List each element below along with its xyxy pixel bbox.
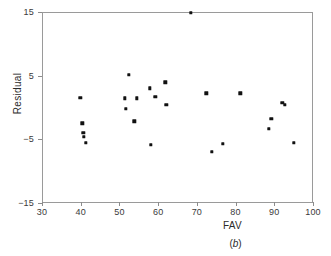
data-point: [82, 135, 85, 138]
x-axis-tick: [197, 202, 198, 206]
x-axis-tick: [313, 202, 314, 206]
data-point: [149, 143, 152, 146]
x-axis-tick-label: 70: [192, 207, 202, 217]
data-point: [205, 92, 208, 95]
data-point: [267, 127, 270, 130]
data-point: [81, 121, 84, 124]
data-point: [127, 73, 130, 76]
y-axis-tick-label: −15: [18, 198, 34, 208]
y-axis-tick: [38, 203, 42, 204]
data-point: [78, 96, 81, 99]
data-point: [189, 11, 192, 14]
y-axis-tick: [38, 139, 42, 140]
data-point: [148, 86, 151, 89]
x-axis-label-text: FAV: [89, 220, 242, 231]
x-axis-tick-label: 90: [269, 207, 279, 217]
x-axis-tick: [158, 202, 159, 206]
data-point: [84, 141, 87, 144]
x-axis-tick-label: 50: [114, 207, 124, 217]
x-axis-tick-label: 80: [230, 207, 240, 217]
data-point: [164, 81, 167, 84]
y-axis-tick-label: 15: [24, 7, 34, 17]
y-axis-tick-label: 5: [29, 71, 34, 81]
plot-frame: [42, 12, 313, 203]
figure-caption-text: (b): [89, 238, 241, 249]
plot-data-area: [43, 13, 312, 202]
x-axis-label: FAV: [0, 220, 331, 231]
data-point: [239, 92, 242, 95]
x-axis-tick-label: 40: [75, 207, 85, 217]
residual-scatter-figure: FAV Residual (b) 30405060708090100155−5−…: [0, 0, 331, 256]
data-point: [154, 95, 157, 98]
y-axis-tick: [38, 12, 42, 13]
x-axis-tick: [42, 202, 43, 206]
data-point: [270, 117, 273, 120]
figure-caption: (b): [0, 238, 331, 249]
data-point: [210, 150, 213, 153]
data-point: [292, 141, 295, 144]
y-axis-label-text: Residual: [12, 73, 23, 114]
data-point: [164, 103, 167, 106]
x-axis-tick: [119, 202, 120, 206]
data-point: [133, 120, 136, 123]
x-axis-tick-label: 60: [153, 207, 163, 217]
data-point: [124, 107, 127, 110]
y-axis-label: Residual: [12, 54, 23, 134]
x-axis-tick: [274, 202, 275, 206]
data-point: [135, 97, 138, 100]
y-axis-tick-label: −5: [23, 134, 34, 144]
data-point: [123, 97, 126, 100]
x-axis-tick-label: 100: [305, 207, 321, 217]
x-axis-tick-label: 30: [37, 207, 47, 217]
y-axis-tick: [38, 76, 42, 77]
x-axis-tick: [81, 202, 82, 206]
data-point: [221, 142, 224, 145]
x-axis-tick: [236, 202, 237, 206]
data-point: [283, 103, 286, 106]
